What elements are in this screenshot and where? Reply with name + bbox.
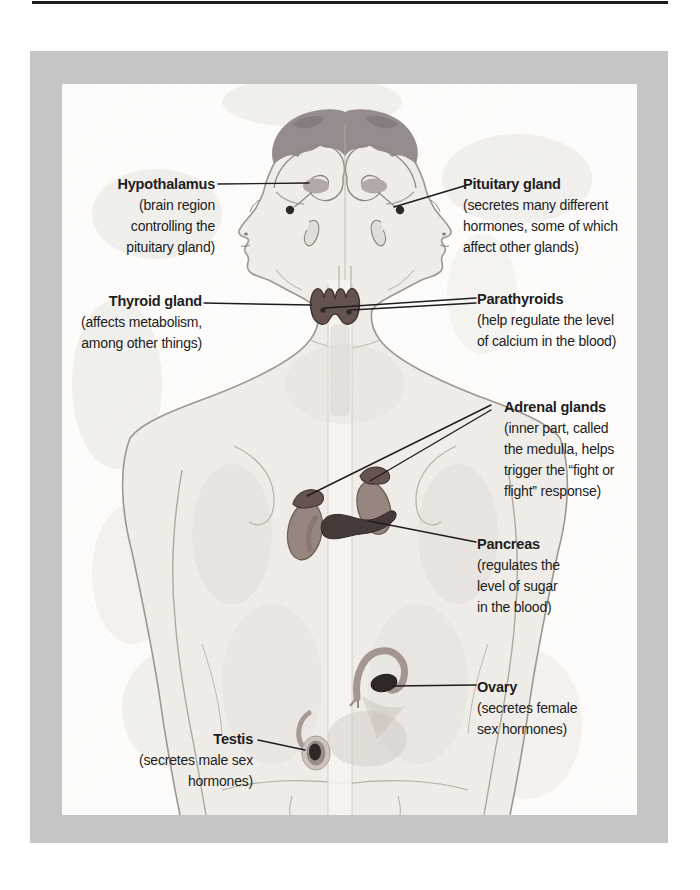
endocrine-system-illustration: [62, 84, 637, 815]
book-page: Hypothalamus (brain region controlling t…: [0, 0, 700, 890]
figure-panel: [62, 84, 637, 815]
page-top-rule: [32, 1, 668, 4]
figure-frame: [30, 51, 668, 843]
pencil-texture: [62, 84, 637, 815]
